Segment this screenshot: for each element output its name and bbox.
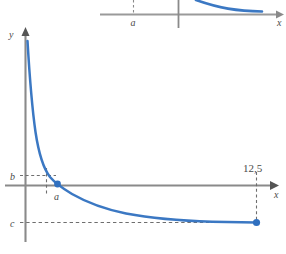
hyperbola-curve: [28, 41, 257, 223]
y-tick-label-b: b: [10, 171, 15, 182]
math-figure: a x y x: [0, 0, 286, 254]
x-tick-label-12-5: 12,5: [243, 162, 263, 174]
inset-tick-label-a: a: [131, 17, 136, 28]
main-chart: y x b c a: [5, 27, 279, 242]
y-tick-label-c: c: [10, 218, 15, 229]
inset-x-axis-name: x: [276, 17, 282, 28]
inset-curve: [196, 0, 262, 12]
y-axis-name: y: [8, 29, 14, 40]
figure-canvas: a x y x: [0, 0, 286, 254]
x-axis-name: x: [273, 189, 279, 200]
inset-chart: a x: [100, 0, 284, 28]
point-a-b: [54, 181, 61, 188]
x-tick-label-a: a: [54, 191, 59, 202]
point-right-endpoint: [253, 219, 260, 226]
y-axis-arrow: [22, 27, 30, 36]
